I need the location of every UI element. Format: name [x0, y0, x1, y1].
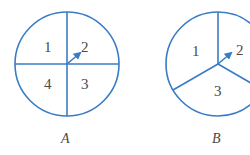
- spinner-b-sector-3: 3: [214, 83, 222, 99]
- spinner-a: 1 2 3 4 A: [15, 12, 119, 146]
- spinners-diagram: 1 2 3 4 A 1 2 3 B: [0, 0, 250, 155]
- spinner-a-caption: A: [60, 131, 70, 146]
- spinner-b-sector-2: 2: [236, 42, 244, 58]
- spinner-b: 1 2 3 B: [166, 12, 250, 146]
- spinner-a-sector-4: 4: [44, 76, 52, 92]
- spinner-b-caption: B: [212, 131, 221, 146]
- spinner-b-left-divider: [173, 64, 218, 90]
- spinner-b-circle: [166, 12, 250, 116]
- spinner-b-arrow-icon: [218, 53, 231, 64]
- spinner-b-sector-1: 1: [192, 43, 200, 59]
- spinner-a-sector-2: 2: [81, 39, 89, 55]
- spinner-a-sector-1: 1: [44, 39, 52, 55]
- spinner-b-right-divider: [218, 64, 250, 90]
- spinner-a-sector-3: 3: [81, 76, 89, 92]
- spinner-a-arrow-icon: [67, 53, 80, 64]
